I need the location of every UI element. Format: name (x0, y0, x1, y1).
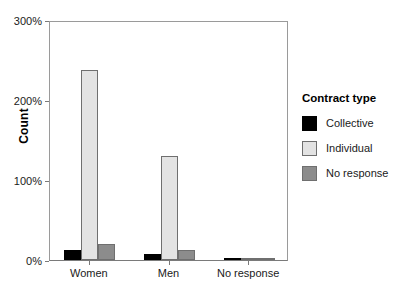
x-axis-tick-label: No response (198, 267, 298, 279)
bar-group (64, 22, 115, 260)
legend-item[interactable]: No response (302, 165, 398, 181)
bar (224, 258, 241, 260)
chart-legend: Contract type CollectiveIndividualNo res… (302, 92, 398, 190)
legend-item[interactable]: Collective (302, 115, 398, 131)
legend-title: Contract type (302, 92, 398, 104)
y-axis-tick-label: 0% (0, 256, 42, 267)
bar (258, 258, 275, 260)
bar (161, 156, 178, 260)
x-axis-tick-mark (89, 261, 90, 265)
legend-swatch-icon (302, 141, 317, 156)
x-axis-tick-mark (169, 261, 170, 265)
bar (241, 258, 258, 260)
legend-item-label: Individual (326, 142, 372, 154)
bar (178, 250, 195, 260)
y-axis-tick-label: 100% (0, 176, 42, 187)
legend-item-label: Collective (326, 117, 374, 129)
y-axis-tick-label: 300% (0, 16, 42, 27)
y-axis-tick-label: 200% (0, 96, 42, 107)
bar-group (144, 22, 195, 260)
bar (81, 70, 98, 260)
legend-swatch-icon (302, 116, 317, 131)
x-axis-tick-mark (248, 261, 249, 265)
legend-items: CollectiveIndividualNo response (302, 115, 398, 181)
bar (144, 254, 161, 260)
bar-chart-figure: Count 0%100%200%300% WomenMenNo response… (0, 0, 400, 283)
y-axis-tick-mark (45, 261, 49, 262)
legend-item-label: No response (326, 167, 388, 179)
bar (98, 244, 115, 260)
bar-group (224, 22, 275, 260)
plot-area (49, 21, 288, 261)
legend-swatch-icon (302, 166, 317, 181)
bars-layer (50, 22, 287, 260)
bar (64, 250, 81, 260)
legend-item[interactable]: Individual (302, 140, 398, 156)
